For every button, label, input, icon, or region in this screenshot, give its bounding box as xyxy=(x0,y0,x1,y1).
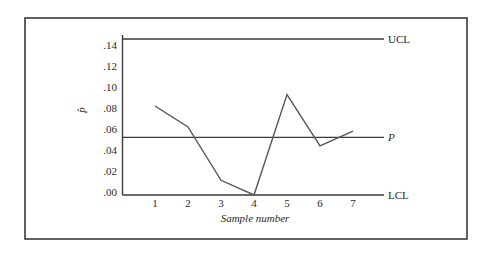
y-tick-label: .14 xyxy=(103,39,117,51)
x-tick-label: 7 xyxy=(350,197,356,209)
x-tick-label: 4 xyxy=(251,197,257,209)
y-axis-tick-labels: .00.02.04.06.08.10.12.14 xyxy=(103,39,117,198)
x-tick-label: 2 xyxy=(185,197,191,209)
y-tick-label: .02 xyxy=(103,165,117,177)
y-tick-label: .06 xyxy=(103,123,117,135)
x-tick-label: 3 xyxy=(218,197,224,209)
sample-proportion-line xyxy=(155,95,353,196)
x-axis-title: Sample number xyxy=(221,212,290,224)
control-line-label-lcl: LCL xyxy=(388,189,409,201)
chart-frame xyxy=(25,18,467,239)
x-tick-label: 6 xyxy=(317,197,323,209)
control-lines: UCLPLCL xyxy=(123,33,411,201)
control-chart: .00.02.04.06.08.10.12.14 1234567 UCLPLCL… xyxy=(0,0,490,256)
x-tick-label: 1 xyxy=(152,197,158,209)
y-axis-title: p̂ xyxy=(75,107,87,114)
control-line-label-p: P xyxy=(387,131,395,143)
y-tick-label: .12 xyxy=(103,60,117,72)
x-axis-tick-labels: 1234567 xyxy=(152,197,356,209)
y-tick-label: .00 xyxy=(103,186,117,198)
y-tick-label: .04 xyxy=(103,144,117,156)
y-tick-label: .08 xyxy=(103,102,117,114)
control-line-label-ucl: UCL xyxy=(388,33,410,45)
x-tick-label: 5 xyxy=(284,197,290,209)
y-tick-label: .10 xyxy=(103,81,117,93)
